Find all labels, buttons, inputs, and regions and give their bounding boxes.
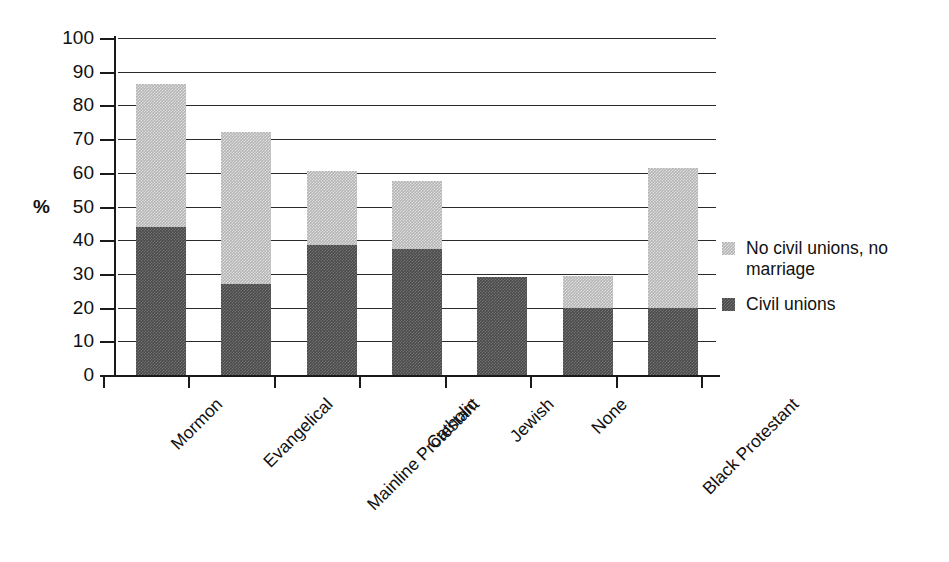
y-axis-tick-label: 0 [50,365,94,384]
x-axis-tick-label: Catholic [423,394,483,454]
bar-segment-no-civil-unions-no-marriage [648,168,698,308]
legend-label: Civil unions [746,294,835,315]
y-axis-tick-label: 70 [50,129,94,148]
bar-segment-civil-unions [392,249,442,375]
bar-group [477,38,527,375]
bar-segment-civil-unions [477,277,527,375]
bar-segment-no-civil-unions-no-marriage [563,276,613,308]
y-axis-line [114,36,116,377]
legend-item[interactable]: Civil unions [722,294,942,315]
stacked-bar-chart: % 1009080706050403020100 MormonEvangelic… [0,0,949,562]
x-axis-tick [445,375,447,388]
bar-segment-no-civil-unions-no-marriage [221,132,271,284]
bar-group [136,38,186,375]
x-axis-tick-label: Jewish [505,394,558,447]
bar-segment-no-civil-unions-no-marriage [392,181,442,248]
x-axis-tick [530,375,532,388]
y-axis-tick-label: 40 [50,230,94,249]
chart-legend: No civil unions, no marriageCivil unions [722,238,942,329]
x-axis-tick [359,375,361,388]
x-axis-tick [701,375,703,388]
bar-segment-civil-unions [307,245,357,375]
x-axis-tick [103,375,105,388]
y-axis-tick-label: 80 [50,95,94,114]
y-axis-tick-label: 60 [50,163,94,182]
bar-group [648,38,698,375]
bar-segment-civil-unions [563,308,613,375]
y-axis-tick-label: 100 [50,28,94,47]
x-axis-tick-label: Mormon [167,394,227,454]
x-axis-tick [188,375,190,388]
bar-group [221,38,271,375]
legend-item[interactable]: No civil unions, no marriage [722,238,942,280]
x-axis-tick [616,375,618,388]
bar-segment-civil-unions [221,284,271,375]
legend-swatch-no-civil-unions-no-marriage [722,242,735,255]
bar-group [563,38,613,375]
y-axis-tick-label: 30 [50,264,94,283]
x-axis-line [103,375,720,377]
y-axis-tick-label: 10 [50,331,94,350]
y-axis-title: % [33,196,50,218]
x-axis-tick-label: Evangelical [260,394,338,472]
bar-segment-civil-unions [648,308,698,375]
bar-segment-no-civil-unions-no-marriage [307,171,357,245]
bar-segment-no-civil-unions-no-marriage [136,84,186,227]
plot-area [118,38,716,375]
bar-segment-civil-unions [136,227,186,375]
bar-group [392,38,442,375]
legend-swatch-civil-unions [722,298,735,311]
y-axis-tick-label: 50 [50,197,94,216]
y-axis-tick-label: 90 [50,62,94,81]
bar-group [307,38,357,375]
legend-label: No civil unions, no marriage [746,238,924,280]
x-axis-tick-label: None [587,394,631,438]
y-axis-tick-label: 20 [50,298,94,317]
x-axis-tick-label: Black Protestant [698,394,803,499]
x-axis-tick [274,375,276,388]
